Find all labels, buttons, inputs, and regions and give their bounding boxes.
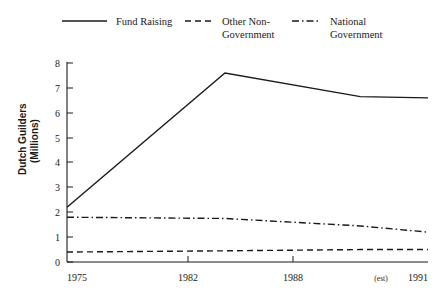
- y-tick-label-6: 6: [55, 108, 60, 119]
- est-annotation: (est): [374, 274, 388, 283]
- legend-label-other-non-government-line2: Government: [222, 29, 275, 40]
- legend-item-national-government: National Government: [292, 16, 383, 40]
- x-tick-label-1975: 1975: [67, 272, 87, 283]
- chart-svg: Fund Raising Other Non- Government Natio…: [0, 0, 441, 295]
- series-layer: [67, 73, 428, 252]
- y-axis-title-line2: (Millions): [29, 119, 40, 163]
- legend-label-fund-raising-line1: Fund Raising: [116, 16, 173, 27]
- legend-label-other-non-government-line1: Other Non-: [222, 16, 271, 27]
- y-tick-label-4: 4: [55, 157, 60, 168]
- y-tick-label-2: 2: [55, 207, 60, 218]
- y-tick-label-0: 0: [55, 257, 60, 268]
- legend-item-fund-raising: Fund Raising: [62, 16, 173, 27]
- legend: Fund Raising Other Non- Government Natio…: [62, 16, 383, 40]
- series-line-national-government: [67, 217, 428, 232]
- legend-label-national-government-line2: Government: [330, 29, 383, 40]
- y-tick-label-1: 1: [55, 232, 60, 243]
- legend-item-other-non-government: Other Non- Government: [185, 16, 275, 40]
- y-axis-title: Dutch Guilders (Millions): [17, 103, 40, 175]
- x-tick-label-1982: 1982: [178, 272, 198, 283]
- y-tick-label-3: 3: [55, 182, 60, 193]
- y-axis-ticks: 8 7 6 5 4 3 2 1 0: [55, 58, 73, 268]
- series-line-fund-raising: [67, 73, 428, 207]
- y-tick-label-5: 5: [55, 133, 60, 144]
- x-tick-label-1988: 1988: [283, 272, 303, 283]
- y-tick-label-7: 7: [55, 83, 60, 94]
- series-line-other-non-government: [67, 250, 428, 252]
- legend-label-national-government-line1: National: [330, 16, 366, 27]
- x-axis-ticks: 1975 1982 1988 (est) 1991: [67, 256, 428, 283]
- line-chart: Fund Raising Other Non- Government Natio…: [0, 0, 441, 295]
- y-tick-label-8: 8: [55, 58, 60, 69]
- x-tick-label-1991: 1991: [408, 272, 428, 283]
- y-axis-title-line1: Dutch Guilders: [17, 103, 28, 175]
